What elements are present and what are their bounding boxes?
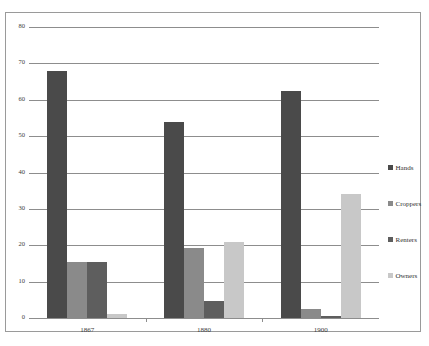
bar-hands-1900 xyxy=(281,91,301,318)
legend-item-renters[interactable]: Renters xyxy=(388,235,429,244)
y-tick-label-70: 70 xyxy=(9,61,25,62)
bar-croppers-1900 xyxy=(301,309,321,318)
y-tick-label-20: 20 xyxy=(9,243,25,244)
x-axis-baseline xyxy=(29,318,379,319)
legend-item-croppers[interactable]: Croppers xyxy=(388,199,429,208)
y-tick-label-40: 40 xyxy=(9,171,25,172)
legend-label-renters: Renters xyxy=(396,236,417,244)
bar-hands-1880 xyxy=(164,122,184,318)
y-tick-label-10: 10 xyxy=(9,280,25,281)
legend-swatch-icon-croppers xyxy=(388,201,393,206)
bar-group-1900: 1900 xyxy=(262,27,379,318)
legend-label-hands: Hands xyxy=(396,164,414,172)
y-tick-label-0: 0 xyxy=(9,316,25,317)
bar-owners-1880 xyxy=(224,242,244,318)
y-tick-label-60: 60 xyxy=(9,98,25,99)
bar-group-1880: 1880 xyxy=(146,27,263,318)
x-axis-tick-2 xyxy=(262,319,263,322)
bar-renters-1867 xyxy=(87,262,107,318)
y-tick-label-80: 80 xyxy=(9,25,25,26)
x-tick-label-1867: 1867 xyxy=(29,326,146,334)
x-tick-label-1880: 1880 xyxy=(146,326,263,334)
legend-label-owners: Owners xyxy=(396,272,418,280)
bar-hands-1867 xyxy=(47,71,67,318)
legend-swatch-icon-hands xyxy=(388,165,393,170)
legend-label-croppers: Croppers xyxy=(396,200,422,208)
legend-item-hands[interactable]: Hands xyxy=(388,163,429,172)
chart-frame: 01020304050607080 186718801900 HandsCrop… xyxy=(5,12,421,332)
legend-swatch-icon-renters xyxy=(388,237,393,242)
bar-croppers-1880 xyxy=(184,248,204,318)
chart-legend: HandsCroppersRentersOwners xyxy=(388,163,429,307)
x-axis-tick-1 xyxy=(146,319,147,322)
y-tick-label-50: 50 xyxy=(9,134,25,135)
x-tick-label-1900: 1900 xyxy=(262,326,379,334)
plot-area: 01020304050607080 186718801900 xyxy=(29,27,379,319)
legend-item-owners[interactable]: Owners xyxy=(388,271,429,280)
bar-renters-1880 xyxy=(204,301,224,318)
bar-owners-1900 xyxy=(341,194,361,318)
bar-croppers-1867 xyxy=(67,262,87,318)
legend-swatch-icon-owners xyxy=(388,273,393,278)
y-tick-label-30: 30 xyxy=(9,207,25,208)
bar-group-1867: 1867 xyxy=(29,27,146,318)
